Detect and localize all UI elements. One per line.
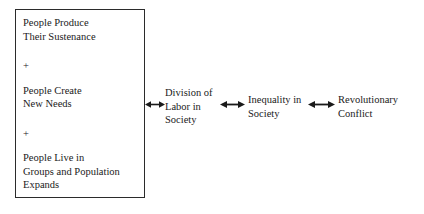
plus-connector-2: + (23, 127, 142, 141)
stage-revolution-line-1: Revolutionary (338, 93, 398, 107)
spacer-1 (23, 43, 142, 59)
double-headed-arrow-icon (308, 99, 335, 110)
stage-division-line-2: Labor in (165, 100, 213, 114)
stage-inequality-in-society: Inequality in Society (248, 93, 301, 120)
cause-item-needs: People Create New Needs (23, 84, 142, 111)
double-headed-arrow-icon (145, 99, 165, 110)
cause-item-needs-line-1: People Create (23, 84, 142, 98)
stage-division-line-3: Society (165, 113, 213, 127)
cause-item-population-line-1: People Live in (23, 151, 142, 165)
stage-revolution-line-2: Conflict (338, 107, 398, 121)
stage-division-line-1: Division of (165, 86, 213, 100)
cause-group-box: People Produce Their Sustenance + People… (15, 9, 145, 198)
stage-inequality-line-2: Society (248, 107, 301, 121)
cause-item-sustenance-line-1: People Produce (23, 16, 142, 30)
spacer-4 (23, 140, 142, 151)
spacer-3 (23, 111, 142, 127)
stage-inequality-line-1: Inequality in (248, 93, 301, 107)
plus-connector-1: + (23, 59, 142, 73)
cause-item-needs-line-2: New Needs (23, 97, 142, 111)
cause-item-sustenance-line-2: Their Sustenance (23, 30, 142, 44)
diagram-canvas: People Produce Their Sustenance + People… (0, 0, 424, 214)
spacer-2 (23, 73, 142, 84)
double-headed-arrow-icon (220, 99, 245, 110)
cause-item-sustenance: People Produce Their Sustenance (23, 16, 142, 43)
cause-list: People Produce Their Sustenance + People… (23, 16, 142, 192)
stage-revolutionary-conflict: Revolutionary Conflict (338, 93, 398, 120)
cause-item-population-line-2: Groups and Population (23, 165, 142, 179)
cause-item-population: People Live in Groups and Population Exp… (23, 151, 142, 192)
stage-division-of-labor: Division of Labor in Society (165, 86, 213, 127)
cause-item-population-line-3: Expands (23, 178, 142, 192)
